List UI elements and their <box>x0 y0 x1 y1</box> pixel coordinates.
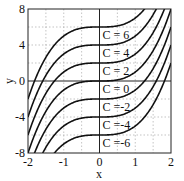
x-tick-label: 2 <box>168 155 174 169</box>
y-tick-label: -4 <box>15 110 25 124</box>
x-tick-label: 1 <box>132 155 138 169</box>
y-tick-labels: 840-4-8 <box>15 2 25 160</box>
chart-figure: C = 6C = 4C = 2C = 0C =-2C =-4C =-6 -2-1… <box>0 0 184 181</box>
curve-labels: C = 6C = 4C = 2C = 0C =-2C =-4C =-6 <box>103 28 131 150</box>
curve-label: C = 2 <box>103 64 130 78</box>
x-axis-label: x <box>96 167 102 181</box>
y-tick-label: 8 <box>19 2 25 16</box>
y-tick-label: -8 <box>15 146 25 160</box>
curve-label: C =-2 <box>103 100 131 114</box>
y-tick-label: 4 <box>19 38 25 52</box>
curve-label: C = 6 <box>103 28 130 42</box>
curve-label: C = 4 <box>103 46 130 60</box>
curve-label: C = 0 <box>103 82 130 96</box>
curve-label: C =-4 <box>103 118 131 132</box>
x-tick-label: -1 <box>59 155 69 169</box>
curve-label: C =-6 <box>103 136 131 150</box>
y-tick-label: 0 <box>19 74 25 88</box>
y-axis-label: y <box>2 78 16 84</box>
